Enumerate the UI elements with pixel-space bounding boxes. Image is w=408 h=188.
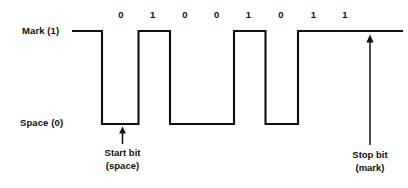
bit-label-3: 0 <box>209 10 225 20</box>
start-bit-annotation-line1: Start bit <box>105 147 141 158</box>
bit-label-4: 1 <box>240 10 256 20</box>
serial-waveform-figure: Mark (1) Space (0) 0 1 0 0 1 0 1 1 Start… <box>0 0 408 188</box>
bit-label-5: 0 <box>273 10 289 20</box>
waveform-canvas <box>0 0 408 188</box>
space-level-label: Space (0) <box>20 118 63 128</box>
bit-label-7: 1 <box>337 10 353 20</box>
bit-label-2: 0 <box>177 10 193 20</box>
start-bit-annotation-line2: (space) <box>105 159 141 172</box>
bit-label-6: 1 <box>305 10 321 20</box>
signal-waveform-trace <box>72 31 403 124</box>
stop-bit-arrow-icon <box>366 35 373 146</box>
stop-bit-annotation: Stop bit (mark) <box>352 148 387 174</box>
start-bit-arrow-icon <box>119 127 126 145</box>
start-bit-annotation: Start bit (space) <box>105 146 141 172</box>
mark-level-label: Mark (1) <box>22 26 59 36</box>
bit-label-0: 0 <box>113 10 129 20</box>
bit-label-1: 1 <box>145 10 161 20</box>
stop-bit-annotation-line2: (mark) <box>352 161 387 174</box>
stop-bit-annotation-line1: Stop bit <box>352 149 387 160</box>
